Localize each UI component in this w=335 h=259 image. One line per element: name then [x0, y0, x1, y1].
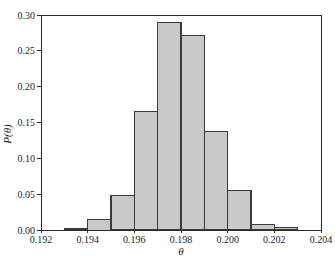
x-tick-label: 0.194: [76, 234, 99, 245]
histogram-chart: 0.1920.1940.1960.1980.2000.2020.2040.000…: [0, 0, 335, 259]
x-tick-label: 0.196: [123, 234, 146, 245]
y-tick-label: 0.10: [18, 153, 36, 164]
y-tick-label: 0.30: [18, 10, 36, 21]
histogram-bar: [158, 22, 181, 230]
y-tick-label: 0.15: [18, 117, 36, 128]
x-tick-label: 0.198: [170, 234, 193, 245]
histogram-bar: [111, 196, 134, 230]
x-tick-label: 0.202: [263, 234, 286, 245]
histogram-bar: [181, 35, 204, 230]
y-axis-title: P(θ): [1, 124, 14, 145]
histogram-bar: [228, 191, 251, 230]
histogram-figure: 0.1920.1940.1960.1980.2000.2020.2040.000…: [0, 0, 335, 259]
histogram-bar: [204, 131, 227, 230]
y-tick-label: 0.05: [18, 189, 36, 200]
y-tick-label: 0.25: [18, 45, 36, 56]
x-tick-label: 0.200: [216, 234, 239, 245]
y-tick-label: 0.00: [18, 225, 36, 236]
histogram-bar: [134, 112, 157, 230]
y-tick-label: 0.20: [18, 81, 36, 92]
x-tick-label: 0.204: [310, 234, 333, 245]
histogram-bar: [251, 224, 274, 230]
x-axis-title: θ: [178, 245, 184, 257]
x-tick-label: 0.192: [30, 234, 53, 245]
histogram-bar: [88, 219, 111, 230]
